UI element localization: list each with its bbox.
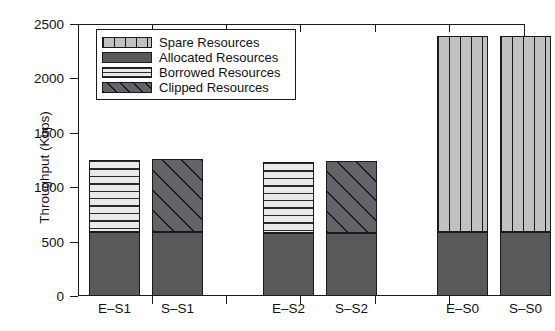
bar-segment-s-s1-allocated-resources <box>152 232 203 296</box>
bar-segment-e-s1-borrowed-resources <box>89 160 140 232</box>
y-tick-label-0: 0 <box>2 289 64 304</box>
x-tick-top-3 <box>300 24 301 32</box>
y-tick-2000 <box>70 78 78 79</box>
x-tick-label-s-s1: S–S1 <box>138 301 218 316</box>
y-tick-right-2500 <box>517 24 525 25</box>
y-tick-label-2000: 2000 <box>2 71 64 86</box>
bar-segment-s-s0-spare-resources <box>500 36 551 232</box>
legend-item-borrowed: Borrowed Resources <box>102 65 290 79</box>
legend-label-spare: Spare Resources <box>159 36 259 49</box>
bar-segment-e-s2-allocated-resources <box>263 233 314 296</box>
legend-label-clipped: Clipped Resources <box>159 81 269 94</box>
bar-segment-e-s0-allocated-resources <box>437 232 488 296</box>
bar-segment-e-s1-allocated-resources <box>89 232 140 296</box>
y-tick-500 <box>70 242 78 243</box>
y-tick-label-2500: 2500 <box>2 17 64 32</box>
bar-segment-e-s0-spare-resources <box>437 36 488 232</box>
x-tick-label-s-s0: S–S0 <box>486 301 555 316</box>
x-tick-top-4 <box>375 24 376 32</box>
legend-swatch-allocated-icon <box>102 52 152 63</box>
legend-swatch-borrowed-icon <box>102 67 152 78</box>
bar-segment-s-s1-clipped-resources <box>152 159 203 232</box>
x-tick-2 <box>226 296 227 304</box>
bar-segment-s-s0-allocated-resources <box>500 232 551 296</box>
chart-legend: Spare Resources Allocated Resources Borr… <box>96 29 296 100</box>
x-tick-top-5 <box>449 24 450 32</box>
legend-item-spare: Spare Resources <box>102 35 290 49</box>
y-tick-0 <box>70 296 78 297</box>
legend-label-allocated: Allocated Resources <box>159 51 278 64</box>
legend-item-clipped: Clipped Resources <box>102 80 290 94</box>
legend-swatch-spare-icon <box>102 37 152 48</box>
y-tick-1500 <box>70 133 78 134</box>
bar-segment-s-s2-clipped-resources <box>326 161 377 233</box>
y-tick-label-1000: 1000 <box>2 180 64 195</box>
bar-segment-s-s2-allocated-resources <box>326 233 377 296</box>
legend-item-allocated: Allocated Resources <box>102 50 290 64</box>
bar-segment-e-s2-borrowed-resources <box>263 162 314 233</box>
legend-swatch-clipped-icon <box>102 82 152 93</box>
y-axis-title-wrapper: Throughput (Kbps) <box>26 24 27 296</box>
legend-label-borrowed: Borrowed Resources <box>159 66 280 79</box>
y-tick-1000 <box>70 187 78 188</box>
y-tick-2500 <box>70 24 78 25</box>
y-tick-label-500: 500 <box>2 234 64 249</box>
y-tick-label-1500: 1500 <box>2 125 64 140</box>
x-tick-label-s-s2: S–S2 <box>312 301 392 316</box>
